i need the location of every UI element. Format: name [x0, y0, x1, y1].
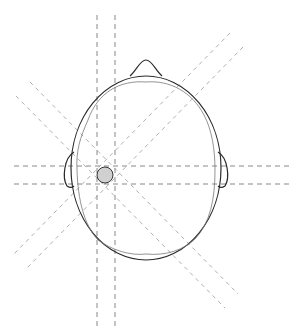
beam-line — [14, 33, 230, 254]
tumor-target — [97, 167, 113, 183]
right-ear-outline — [218, 152, 228, 188]
nose-outline — [130, 60, 162, 76]
left-ear-outline — [64, 152, 74, 188]
head-outline — [71, 76, 221, 260]
beam-line — [27, 47, 243, 268]
beam-line — [16, 96, 225, 308]
head-beam-diagram — [0, 0, 293, 336]
beam-lines — [14, 15, 290, 326]
brain-outline — [77, 82, 215, 255]
